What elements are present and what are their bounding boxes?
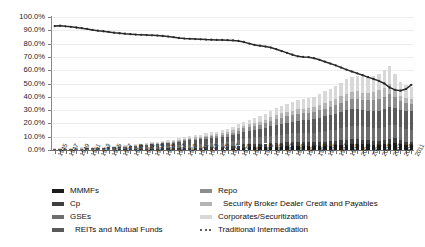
bar-segment bbox=[388, 84, 391, 93]
legend-label: GSEs bbox=[70, 212, 91, 221]
bar-segment bbox=[377, 99, 380, 111]
bar-segment bbox=[307, 108, 310, 113]
bar-segment bbox=[345, 101, 348, 111]
chart-legend: MMMFsCpGSEsREITs and Mutual Funds RepoSe… bbox=[52, 185, 414, 243]
bar-segment bbox=[237, 124, 240, 128]
bar-segment bbox=[323, 91, 326, 102]
bar-segment bbox=[383, 97, 386, 110]
bar-segment bbox=[302, 113, 305, 120]
legend-label: Corporates/Securitization bbox=[218, 212, 308, 221]
bar-segment bbox=[264, 114, 267, 120]
line-marker bbox=[151, 34, 153, 36]
bar-segment bbox=[388, 125, 391, 138]
bar-segment bbox=[377, 111, 380, 128]
bar-segment bbox=[258, 129, 261, 137]
legend-item[interactable]: Security Broker Dealer Credit and Payabl… bbox=[200, 198, 414, 210]
legend-color-swatch bbox=[52, 202, 64, 207]
y-axis-tick-label: 20.0% bbox=[23, 119, 45, 127]
bar-segment bbox=[199, 137, 202, 138]
line-marker bbox=[237, 40, 239, 42]
bar-segment bbox=[404, 103, 407, 111]
bar-segment bbox=[318, 105, 321, 110]
bar-segment bbox=[339, 128, 342, 140]
bar-segment bbox=[318, 132, 321, 142]
line-marker bbox=[329, 62, 331, 64]
bar-segment bbox=[329, 107, 332, 115]
bar-segment bbox=[215, 132, 218, 135]
line-marker bbox=[194, 38, 196, 40]
legend-item[interactable]: Corporates/Securitization bbox=[200, 211, 414, 223]
bar-segment bbox=[258, 125, 261, 130]
bar-segment bbox=[329, 130, 332, 141]
y-axis-tick-label: 70.0% bbox=[23, 53, 45, 61]
line-marker bbox=[189, 38, 191, 40]
bar-segment bbox=[399, 82, 402, 95]
bar-segment bbox=[307, 120, 310, 133]
bar-segment bbox=[199, 138, 202, 139]
bar-segment bbox=[383, 127, 386, 140]
bar-segment bbox=[393, 97, 396, 108]
bar-segment bbox=[215, 138, 218, 143]
line-marker bbox=[270, 46, 272, 48]
bar-segment bbox=[280, 118, 283, 124]
bar-segment bbox=[393, 125, 396, 139]
bar-segment bbox=[291, 133, 294, 142]
bar-segment bbox=[312, 112, 315, 119]
x-axis: 1945194719491951195319551957195919611963… bbox=[52, 151, 418, 183]
bar-segment bbox=[404, 98, 407, 104]
bar-segment bbox=[183, 139, 186, 140]
bar-segment bbox=[204, 136, 207, 138]
legend-item[interactable]: REITs and Mutual Funds bbox=[52, 224, 200, 236]
legend-label: REITs and Mutual Funds bbox=[70, 225, 163, 234]
bar-segment bbox=[253, 123, 256, 126]
gridline bbox=[52, 44, 414, 45]
legend-item[interactable]: Cp bbox=[52, 198, 200, 210]
bar-segment bbox=[253, 126, 256, 130]
bar-segment bbox=[377, 128, 380, 141]
legend-item[interactable]: MMMFs bbox=[52, 185, 200, 197]
line-marker bbox=[135, 33, 137, 35]
bar-segment bbox=[204, 133, 207, 135]
bar-segment bbox=[296, 114, 299, 121]
bar-segment bbox=[264, 120, 267, 123]
bar-segment bbox=[388, 94, 391, 107]
bar-segment bbox=[339, 103, 342, 112]
line-marker bbox=[356, 72, 358, 74]
bar-segment bbox=[377, 74, 380, 91]
bar-segment bbox=[248, 127, 251, 131]
line-marker bbox=[210, 39, 212, 41]
bar-segment bbox=[399, 127, 402, 140]
bar-segment bbox=[361, 110, 364, 126]
bar-segment bbox=[237, 131, 240, 134]
bar-segment bbox=[231, 133, 234, 136]
legend-label: Security Broker Dealer Credit and Payabl… bbox=[218, 199, 378, 208]
line-marker bbox=[167, 35, 169, 37]
line-marker bbox=[232, 39, 234, 41]
bar-segment bbox=[345, 110, 348, 127]
line-marker bbox=[324, 61, 326, 63]
bar-segment bbox=[204, 137, 207, 138]
bar-segment bbox=[280, 135, 283, 143]
bar-segment bbox=[269, 111, 272, 117]
bar-segment bbox=[221, 135, 224, 137]
legend-label: Cp bbox=[70, 199, 80, 208]
bar-segment bbox=[323, 116, 326, 131]
bar-segment bbox=[410, 99, 413, 104]
gridline bbox=[52, 110, 414, 111]
legend-item[interactable]: GSEs bbox=[52, 211, 200, 223]
bar-segment bbox=[312, 119, 315, 133]
bar-segment bbox=[231, 135, 234, 141]
bar-segment bbox=[356, 76, 359, 91]
line-marker bbox=[54, 25, 56, 27]
bar-segment bbox=[329, 101, 332, 107]
bar-segment bbox=[194, 137, 197, 138]
bar-segment bbox=[242, 132, 245, 139]
legend-item[interactable]: Traditional Intermediation bbox=[200, 224, 414, 236]
bar-segment bbox=[318, 110, 321, 117]
bar-segment bbox=[275, 108, 278, 115]
bar-segment bbox=[388, 66, 391, 84]
bar-segment bbox=[302, 109, 305, 114]
bar-segment bbox=[410, 87, 413, 99]
bar-segment bbox=[361, 100, 364, 111]
legend-item[interactable]: Repo bbox=[200, 185, 414, 197]
